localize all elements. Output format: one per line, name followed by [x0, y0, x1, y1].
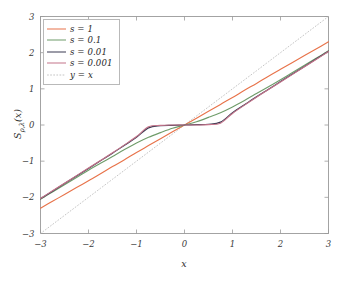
y-tick-label: 2: [0, 48, 35, 58]
x-tick-label: 0: [182, 239, 187, 249]
legend-entry-label: y = x: [70, 70, 93, 80]
y-tick-label: −2: [0, 192, 35, 202]
x-axis-label: x: [181, 258, 186, 269]
legend-box: s = 1s = 0.1s = 0.01s = 0.001y = x: [43, 19, 120, 85]
legend-entry-label: s = 1: [70, 24, 93, 34]
y-axis-label-subscript: ρ,λ: [18, 122, 26, 132]
legend-entry-label: s = 0.1: [70, 35, 101, 45]
legend-entry-label: s = 0.001: [70, 58, 113, 68]
legend-entry: s = 0.1: [47, 35, 113, 47]
legend-entry: s = 1: [47, 23, 113, 35]
x-tick-label: −1: [130, 239, 143, 249]
y-axis-label: Sρ,λ(x): [12, 109, 26, 139]
x-axis-label-text: x: [181, 258, 186, 269]
legend-entry: y = x: [47, 69, 113, 81]
x-tick-label: 3: [326, 239, 331, 249]
legend-color-swatch: [47, 35, 66, 45]
y-tick-label: 1: [0, 84, 35, 94]
y-axis-label-main: S: [12, 132, 23, 139]
x-tick-label: 1: [230, 239, 235, 249]
legend-entry-label: s = 0.01: [70, 47, 107, 57]
legend-entry: s = 0.001: [47, 58, 113, 70]
x-tick-label: −2: [82, 239, 95, 249]
figure-canvas: −3−2−101233210−1−2−3 x Sρ,λ(x) s = 1s = …: [0, 0, 341, 282]
x-tick-label: 2: [278, 239, 283, 249]
legend-color-swatch: [47, 58, 66, 68]
y-axis-label-argument: (x): [12, 109, 23, 122]
legend-color-swatch: [47, 70, 66, 80]
legend-color-swatch: [47, 47, 66, 57]
legend-entry: s = 0.01: [47, 46, 113, 58]
y-tick-label: −1: [0, 156, 35, 166]
y-tick-label: −3: [0, 229, 35, 239]
x-tick-label: −3: [34, 239, 47, 249]
legend-color-swatch: [47, 24, 66, 34]
y-tick-label: 3: [0, 12, 35, 22]
